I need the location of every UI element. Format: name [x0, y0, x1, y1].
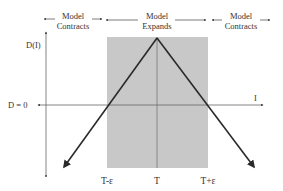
tick-label-t: T [154, 176, 160, 186]
y-axis-label: D(I) [26, 40, 41, 50]
center-region-label-line2: Expands [142, 21, 171, 31]
right-region-label-line2: Contracts [225, 21, 258, 31]
center-region-label-line1: Model [146, 11, 169, 21]
x-axis-label: I [254, 93, 257, 103]
zero-line-label: D = 0 [8, 100, 27, 110]
tick-label-t-plus-epsilon: T+ε [200, 176, 215, 186]
diagram-canvas: Model Contracts Model Expands Model Cont… [0, 0, 283, 191]
expansion-region [107, 37, 208, 168]
right-region-label-line1: Model [230, 11, 253, 21]
left-region-label-line1: Model [62, 11, 85, 21]
y-axis-bottom-dot [45, 175, 47, 177]
tick-label-t-minus-epsilon: T-ε [101, 176, 113, 186]
left-region-label-line2: Contracts [57, 21, 90, 31]
